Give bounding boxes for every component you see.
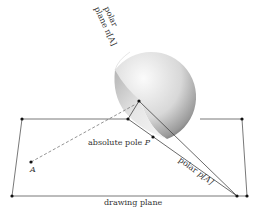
apex-point xyxy=(137,99,140,102)
corner-point xyxy=(245,194,248,197)
hemisphere xyxy=(114,52,196,139)
dashed-line xyxy=(31,104,136,162)
corner-point xyxy=(10,194,13,197)
plane-edge-point xyxy=(126,117,129,120)
polar-plane-label: polar plane π[A] xyxy=(92,1,126,47)
point-a xyxy=(29,160,32,163)
polar-vertex-point xyxy=(235,194,238,197)
drawing-plane-label: drawing plane xyxy=(104,198,163,207)
corner-point xyxy=(20,117,23,120)
drawing-plane xyxy=(12,119,247,196)
pole-point-p xyxy=(151,135,154,138)
polar-line-label: polar p[A] xyxy=(177,155,216,187)
corner-point xyxy=(240,117,243,120)
polar-plane-diagram: polar plane π[A] absolute pole P polar p… xyxy=(0,0,258,213)
absolute-pole-label: absolute pole P xyxy=(88,138,151,147)
svg-text:polar p[A]: polar p[A] xyxy=(177,155,216,187)
point-a-label: A xyxy=(29,165,36,174)
